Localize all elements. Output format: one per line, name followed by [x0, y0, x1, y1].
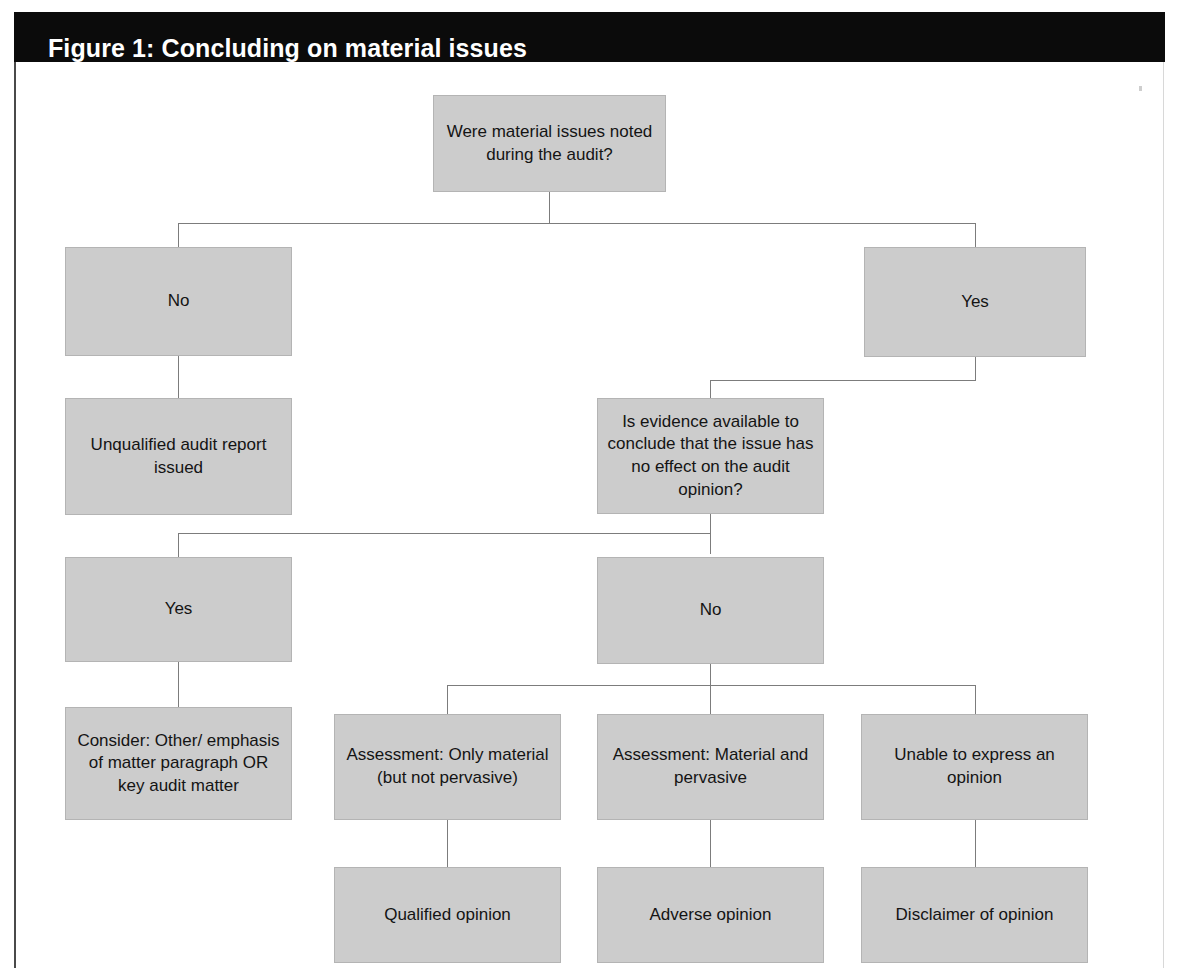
- connector-bus-to-assess-mat: [447, 685, 448, 714]
- connector-assess-pervasive-to-adverse: [710, 820, 711, 867]
- node-label: Yes: [74, 598, 283, 621]
- node-disclaimer-of-opinion[interactable]: Disclaimer of opinion: [861, 867, 1088, 963]
- node-unable-to-express-opinion[interactable]: Unable to express an opinion: [861, 714, 1088, 820]
- node-yes-evidence-available[interactable]: Yes: [65, 557, 292, 662]
- node-question-material-issues[interactable]: Were material issues noted during the au…: [433, 95, 666, 192]
- node-label: Unqualified audit report issued: [74, 434, 283, 479]
- node-label: Is evidence available to conclude that t…: [606, 411, 815, 501]
- connector-bus-row2: [178, 223, 975, 224]
- connector-yes2-to-consider: [178, 662, 179, 707]
- node-no-evidence-available[interactable]: No: [597, 557, 824, 664]
- node-consider-emphasis-of-matter[interactable]: Consider: Other/ emphasis of matter para…: [65, 707, 292, 820]
- node-label: Yes: [873, 291, 1077, 314]
- figure-page: Figure 1: Concluding on material issues: [0, 0, 1184, 978]
- connector-no2-down: [710, 664, 711, 714]
- flowchart: Were material issues noted during the au…: [0, 0, 1184, 978]
- connector-q1-down: [549, 192, 550, 223]
- node-question-evidence-available[interactable]: Is evidence available to conclude that t…: [597, 398, 824, 514]
- node-label: Adverse opinion: [606, 904, 815, 927]
- node-unqualified-audit-report[interactable]: Unqualified audit report issued: [65, 398, 292, 515]
- node-label: Assessment: Only material (but not perva…: [343, 744, 552, 789]
- connector-no1-to-unqualified: [178, 356, 179, 398]
- node-qualified-opinion[interactable]: Qualified opinion: [334, 867, 561, 963]
- node-label: No: [606, 599, 815, 622]
- connector-assess-mat-to-qualified: [447, 820, 448, 867]
- node-label: Disclaimer of opinion: [870, 904, 1079, 927]
- scan-artifact: [1139, 86, 1142, 91]
- node-adverse-opinion[interactable]: Adverse opinion: [597, 867, 824, 963]
- node-label: Qualified opinion: [343, 904, 552, 927]
- node-label: No: [74, 290, 283, 313]
- node-label: Consider: Other/ emphasis of matter para…: [74, 730, 283, 798]
- connector-q2-down: [710, 514, 711, 554]
- connector-drop-to-q2: [710, 380, 711, 398]
- node-label: Were material issues noted during the au…: [442, 121, 657, 166]
- node-assessment-material-and-pervasive[interactable]: Assessment: Material and pervasive: [597, 714, 824, 820]
- connector-bus-to-yes1: [975, 223, 976, 247]
- connector-yes1-to-q2: [710, 380, 976, 381]
- connector-bus-to-unable: [975, 685, 976, 714]
- connector-unable-to-disclaimer: [975, 820, 976, 867]
- connector-bus-to-yes2: [178, 533, 179, 557]
- node-assessment-only-material[interactable]: Assessment: Only material (but not perva…: [334, 714, 561, 820]
- node-no-material-issues[interactable]: No: [65, 247, 292, 356]
- connector-bus-row4: [178, 533, 711, 534]
- node-label: Assessment: Material and pervasive: [606, 744, 815, 789]
- node-yes-material-issues[interactable]: Yes: [864, 247, 1086, 357]
- connector-bus-to-no1: [178, 223, 179, 247]
- connector-bus-row5: [447, 685, 976, 686]
- connector-yes1-down: [975, 357, 976, 380]
- node-label: Unable to express an opinion: [870, 744, 1079, 789]
